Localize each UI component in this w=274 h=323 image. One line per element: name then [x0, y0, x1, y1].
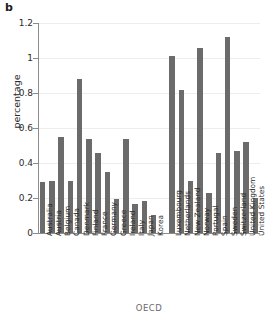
- x-axis-title: OECD: [38, 303, 260, 313]
- x-tick-label: Greece: [120, 210, 128, 236]
- y-tick-label: 1.2: [3, 18, 33, 28]
- x-axis-tick-labels: AustraliaAustriaBelgiumCanadaDenmarkFinl…: [38, 234, 260, 300]
- y-tick-label-wrap: 0.2: [0, 193, 33, 203]
- x-tick-label: Denmark: [83, 202, 91, 236]
- x-tick-label: Netherlands: [184, 191, 192, 236]
- y-tick-label: 1: [3, 53, 33, 63]
- x-tick-label: Norway: [203, 208, 211, 236]
- x-tick-label: United Kingdom: [249, 177, 257, 236]
- y-tick-mark: [33, 233, 38, 234]
- x-tick-label: Australia: [46, 203, 54, 236]
- x-tick-label: France: [101, 211, 109, 236]
- x-tick-label: Korea: [157, 215, 165, 236]
- y-tick-label: 0.8: [3, 88, 33, 98]
- y-tick-label: 0.6: [3, 123, 33, 133]
- y-tick-label: 0.4: [3, 158, 33, 168]
- x-tick-label: Germany: [110, 202, 118, 236]
- y-tick-mark: [33, 23, 38, 24]
- x-tick-label: Austria: [55, 210, 63, 236]
- x-tick-label: Belgium: [64, 206, 72, 236]
- y-tick-mark: [33, 198, 38, 199]
- y-tick-mark: [33, 163, 38, 164]
- x-tick-label: Italy: [138, 220, 146, 236]
- x-tick-label: Switzerland: [240, 193, 248, 236]
- y-tick-mark: [33, 93, 38, 94]
- y-tick-label-wrap: 0.8: [0, 88, 33, 98]
- x-tick-label: Spain: [221, 215, 229, 236]
- y-tick-label: 0: [3, 228, 33, 238]
- x-tick-label: Canada: [73, 208, 81, 236]
- chart-panel: b percentage AustraliaAustriaBelgiumCana…: [0, 0, 274, 323]
- y-tick-label-wrap: 0: [0, 228, 33, 238]
- x-tick-label: Luxembourg: [175, 190, 183, 236]
- bar-series: [38, 23, 260, 233]
- panel-label: b: [5, 1, 13, 14]
- x-tick-label: Portugal: [212, 205, 220, 236]
- x-tick-label: Finland: [92, 210, 100, 236]
- x-tick-label: New Zealand: [194, 187, 202, 236]
- y-tick-label-wrap: 0.6: [0, 123, 33, 133]
- bar: [225, 37, 231, 233]
- y-tick-label-wrap: 1.2: [0, 18, 33, 28]
- x-tick-label: Ireland: [129, 210, 137, 236]
- y-tick-mark: [33, 128, 38, 129]
- x-tick-label: Japan: [147, 215, 155, 236]
- x-tick-label: United States: [258, 186, 266, 236]
- x-tick-label: Sweden: [231, 207, 239, 236]
- y-tick-label: 0.2: [3, 193, 33, 203]
- y-tick-label-wrap: 1: [0, 53, 33, 63]
- y-tick-mark: [33, 58, 38, 59]
- y-tick-label-wrap: 0.4: [0, 158, 33, 168]
